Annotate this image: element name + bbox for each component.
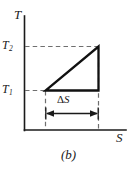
ts-diagram-canvas: [0, 0, 137, 171]
y-tick-label-t2-symbol: T: [2, 38, 9, 52]
y-tick-label-t1-subscript: 1: [9, 88, 13, 97]
figure-caption: (b): [0, 147, 137, 163]
y-axis-label: T: [14, 8, 21, 21]
cycle-triangle-path: [46, 47, 99, 91]
y-tick-label-t1: T1: [2, 83, 13, 97]
y-tick-label-t1-symbol: T: [2, 82, 9, 96]
delta-s-dimension-arrow: [46, 108, 98, 120]
y-tick-label-t2: T2: [2, 39, 13, 53]
x-axis-label: S: [116, 131, 123, 144]
delta-s-label: ΔS: [57, 94, 70, 105]
delta-s-variable: S: [64, 93, 70, 105]
ts-diagram-figure: T T2 T1 ΔS S (b): [0, 0, 137, 171]
y-tick-label-t2-subscript: 2: [9, 44, 13, 53]
